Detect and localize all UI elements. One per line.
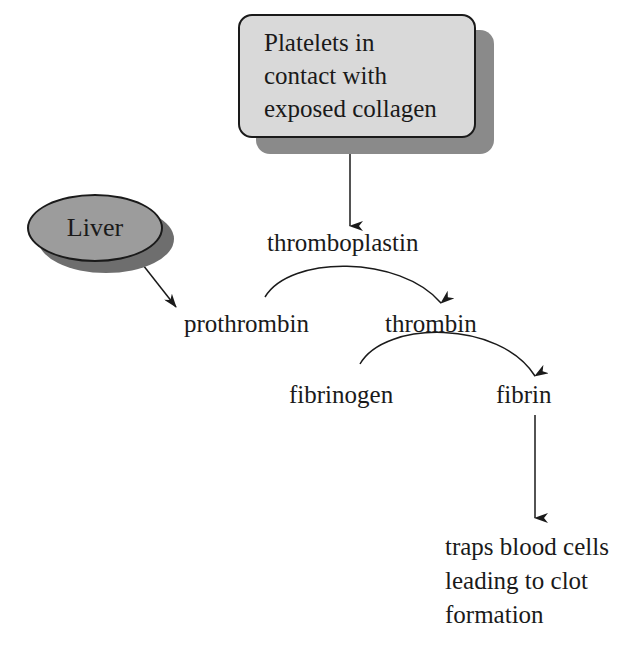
thrombin-label: thrombin [385,309,477,339]
thromboplastin-label: thromboplastin [267,228,418,258]
platelets-line-2: contact with [264,59,460,92]
platelets-line-3: exposed collagen [264,92,460,125]
arrow-liver-to-prothrombin [143,265,176,307]
prothrombin-label: prothrombin [184,309,309,339]
outcome-text: traps blood cells leading to clot format… [445,530,609,632]
platelets-line-1: Platelets in [264,26,460,59]
clotting-diagram: Platelets in contact with exposed collag… [0,0,642,645]
outcome-line-2: leading to clot [445,564,609,598]
outcome-line-1: traps blood cells [445,530,609,564]
liver-node: Liver [27,194,163,262]
fibrinogen-label: fibrinogen [289,380,393,410]
outcome-line-3: formation [445,598,609,632]
curved-arrow-prothrombin-to-thrombin [265,266,441,303]
fibrin-label: fibrin [496,380,552,410]
liver-label: Liver [67,213,123,243]
platelets-node: Platelets in contact with exposed collag… [238,14,476,138]
